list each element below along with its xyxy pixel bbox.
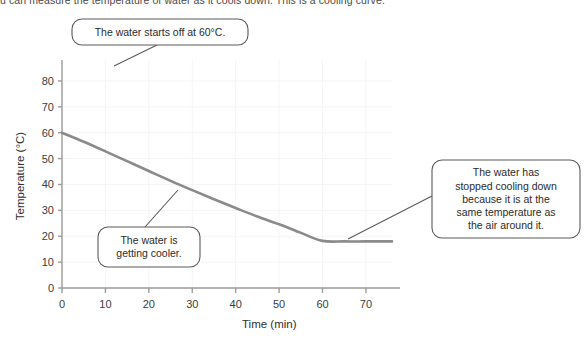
y-tick-label-60: 60 <box>42 127 54 139</box>
callout-cooling-line-1: getting cooler. <box>116 247 181 259</box>
x-tick-label-30: 30 <box>186 298 198 310</box>
y-tick-label-30: 30 <box>42 204 54 216</box>
callout-boxes: The water starts off at 60°C.The water i… <box>72 19 580 267</box>
callout-start-temp-line-0: The water starts off at 60°C. <box>95 26 226 38</box>
x-axis-title: Time (min) <box>242 318 297 330</box>
y-tick-label-40: 40 <box>42 178 54 190</box>
callout-cooling: The water isgetting cooler. <box>98 227 200 267</box>
callout-plateau: The water hasstopped cooling downbecause… <box>432 160 580 238</box>
callout-plateau-line-4: the air around it. <box>468 219 544 231</box>
callout-start-temp: The water starts off at 60°C. <box>72 19 248 45</box>
chart-canvas: u can measure the temperature of water a… <box>0 0 588 347</box>
callout-plateau-line-0: The water has <box>473 166 540 178</box>
x-axis-ticks: 010203040506070 <box>59 288 372 310</box>
y-tick-label-50: 50 <box>42 153 54 165</box>
y-tick-label-20: 20 <box>42 230 54 242</box>
x-tick-label-70: 70 <box>360 298 372 310</box>
x-tick-label-20: 20 <box>143 298 155 310</box>
data-series-line <box>62 133 392 242</box>
y-tick-label-70: 70 <box>42 101 54 113</box>
x-tick-label-0: 0 <box>59 298 65 310</box>
x-tick-label-50: 50 <box>273 298 285 310</box>
y-tick-label-80: 80 <box>42 75 54 87</box>
cooling-curve-chart: 01020304050607080 010203040506070 The wa… <box>0 0 588 347</box>
x-tick-label-60: 60 <box>316 298 328 310</box>
x-tick-label-40: 40 <box>230 298 242 310</box>
callout-plateau-line-3: same temperature as <box>456 206 555 218</box>
y-axis-title: Temperature (°C) <box>14 132 26 220</box>
x-tick-label-10: 10 <box>99 298 111 310</box>
y-axis-ticks: 01020304050607080 <box>42 75 62 294</box>
callout-plateau-line-1: stopped cooling down <box>455 180 557 192</box>
callout-cooling-line-0: The water is <box>120 234 177 246</box>
y-tick-label-10: 10 <box>42 256 54 268</box>
y-tick-label-0: 0 <box>48 282 54 294</box>
callout-plateau-line-2: because it is at the <box>462 193 550 205</box>
